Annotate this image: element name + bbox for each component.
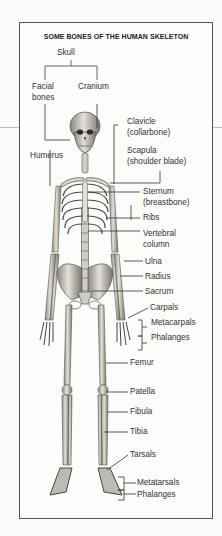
label-radius: Radius (145, 272, 171, 282)
hands (40, 322, 130, 346)
label-facial-bones-1: Facial (32, 82, 54, 92)
label-sternum-1: Sternum (143, 187, 174, 197)
skull-bracket (45, 60, 97, 80)
label-humerus: Humerus (30, 151, 63, 161)
label-sacrum: Sacrum (145, 287, 173, 297)
label-scapula-1: Scapula (127, 146, 157, 156)
label-clavicle-1: Clavicle (127, 117, 156, 127)
sternum (83, 182, 88, 222)
label-facial-bones-2: bones (32, 93, 54, 103)
label-vertebral-column-2: column (143, 240, 169, 250)
label-phalanges-hand: Phalanges (151, 333, 190, 343)
label-clavicle-2: (collarbone) (127, 128, 170, 138)
label-skull: Skull (57, 48, 75, 58)
label-patella: Patella (130, 387, 155, 397)
label-tibia: Tibia (130, 427, 147, 437)
label-scapula-2: (shoulder blade) (127, 157, 186, 167)
label-metatarsals: Metatarsals (137, 478, 179, 488)
legs (62, 305, 108, 465)
label-femur: Femur (130, 358, 154, 368)
label-cranium: Cranium (78, 82, 109, 92)
label-tarsals: Tarsals (130, 450, 156, 460)
label-ribs: Ribs (143, 213, 159, 223)
label-vertebral-column-1: Vertebral (143, 229, 176, 239)
label-fibula: Fibula (130, 407, 152, 417)
feet (50, 468, 122, 495)
label-sternum-2: (breastbone) (143, 198, 189, 208)
label-metacarpals: Metacarpals (151, 318, 196, 328)
label-carpals: Carpals (150, 303, 178, 313)
skull (70, 112, 100, 153)
label-ulna: Ulna (145, 257, 162, 267)
skeleton-illustration (0, 0, 222, 536)
label-phalanges-foot: Phalanges (137, 490, 176, 500)
